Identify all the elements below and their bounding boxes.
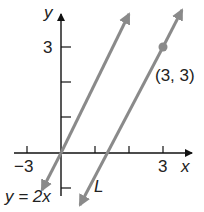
y-ticks xyxy=(61,47,71,188)
point-label: (3, 3) xyxy=(155,67,195,84)
x-tick-label-3: 3 xyxy=(158,158,167,175)
line-L-label: L xyxy=(94,178,103,195)
y-axis-label: y xyxy=(44,4,53,21)
x-tick-label-neg3: −3 xyxy=(14,158,33,175)
point-3-3 xyxy=(159,43,168,52)
graph: y 3 −3 3 x (3, 3) y = 2x L xyxy=(0,0,204,212)
y-tick-label-3: 3 xyxy=(43,39,52,56)
x-ticks xyxy=(27,146,163,153)
x-axis-label: x xyxy=(181,158,190,175)
line-y-equals-2x xyxy=(42,14,129,190)
line-y-equals-2x-label: y = 2x xyxy=(5,188,51,205)
